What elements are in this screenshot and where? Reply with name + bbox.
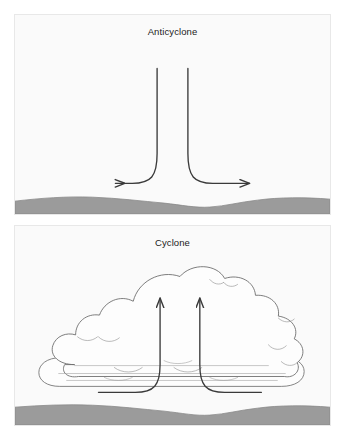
panel-title-cyclone: Cyclone	[15, 237, 330, 248]
anticyclone-illustration	[15, 15, 330, 214]
panel-title-anticyclone: Anticyclone	[15, 26, 330, 37]
ground-terrain	[15, 405, 330, 425]
cyclone-illustration	[15, 226, 330, 425]
weather-diagram: Anticyclone	[0, 0, 345, 440]
subsidence-arrow-right	[188, 68, 250, 183]
panel-cyclone: Cyclone	[14, 225, 331, 426]
subsidence-arrow-left	[115, 68, 157, 183]
cumulus-cloud	[52, 267, 303, 377]
panel-anticyclone: Anticyclone	[14, 14, 331, 215]
ground-terrain	[15, 197, 330, 214]
